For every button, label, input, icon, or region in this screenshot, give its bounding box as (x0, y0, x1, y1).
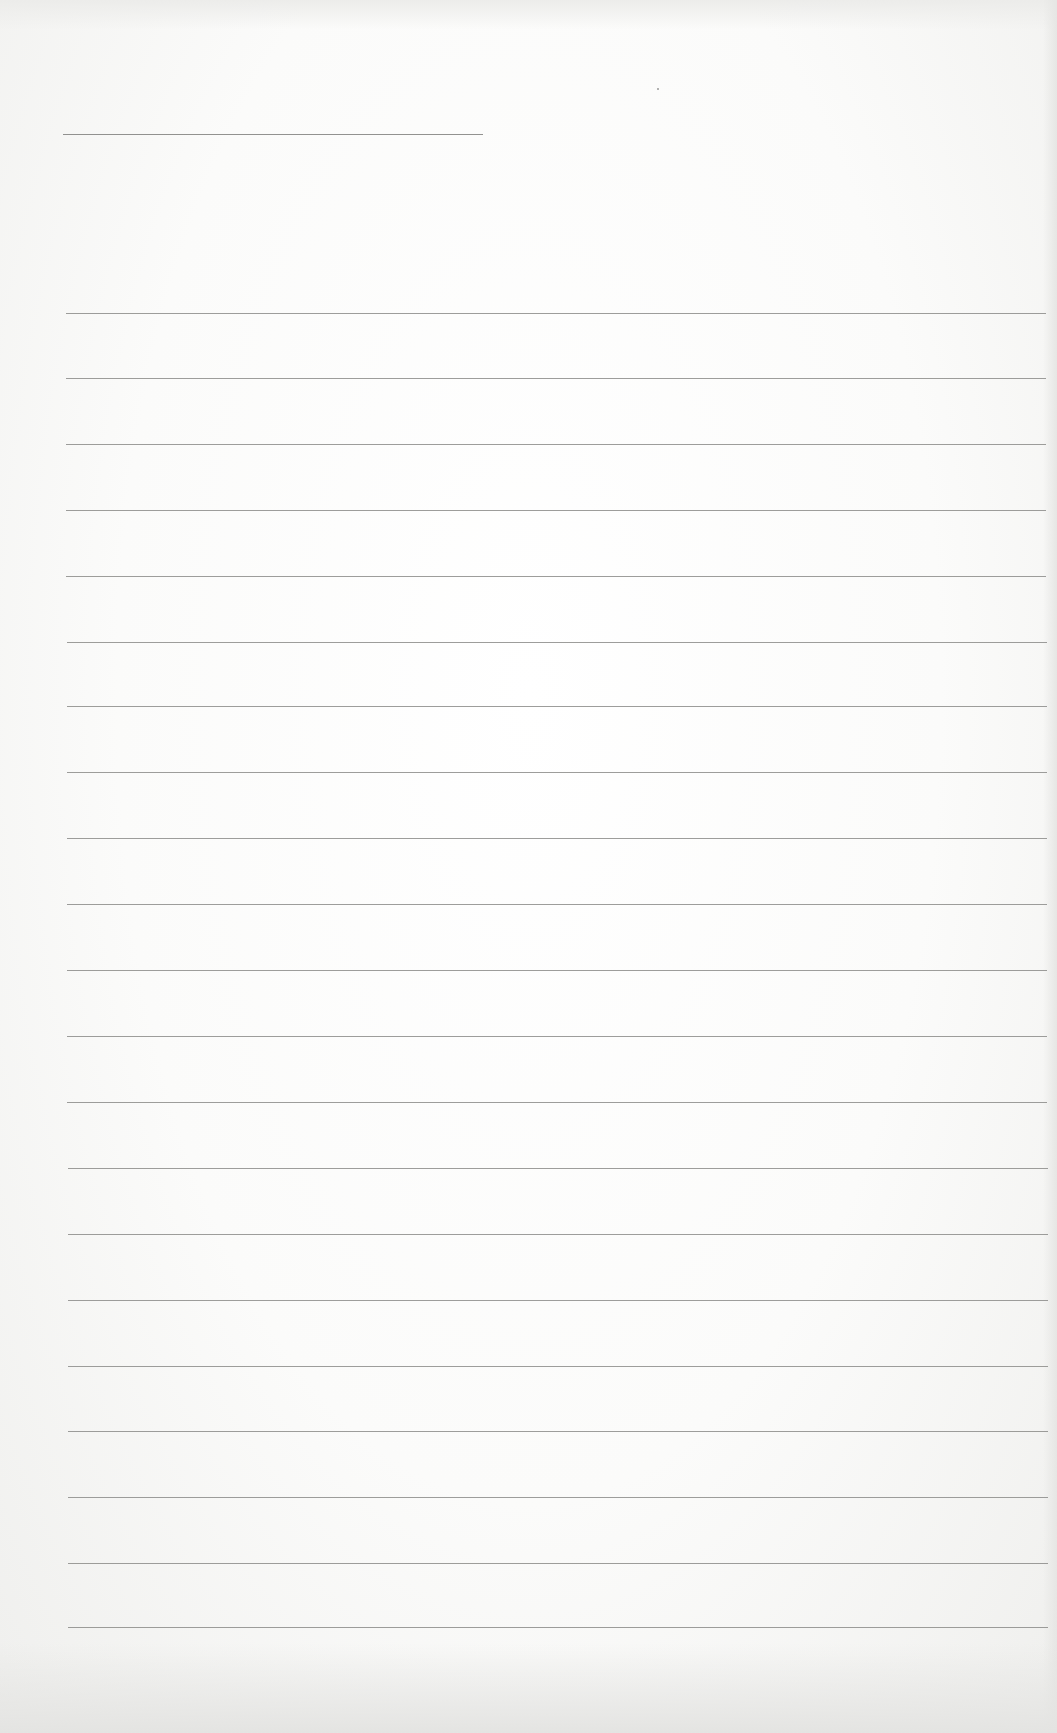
ruled-line (67, 642, 1047, 643)
ruled-line (66, 444, 1046, 445)
ruled-line (67, 1036, 1047, 1037)
ruled-line (67, 904, 1047, 905)
ruled-line (66, 576, 1046, 577)
ruled-line (68, 1168, 1048, 1169)
ruled-line (68, 1497, 1048, 1498)
ruled-line (68, 1300, 1048, 1301)
ruled-line (68, 1627, 1048, 1628)
paper-speck (657, 88, 659, 90)
scan-shadow-right (1043, 0, 1057, 1733)
ruled-line (66, 313, 1046, 314)
ruled-line (68, 1234, 1048, 1235)
scan-shadow-top (0, 0, 1057, 30)
paper-sheet (0, 0, 1057, 1733)
ruled-line (67, 970, 1047, 971)
ruled-line (68, 1431, 1048, 1432)
header-line (63, 134, 483, 135)
ruled-line (67, 772, 1047, 773)
ruled-line (67, 706, 1047, 707)
ruled-line (67, 838, 1047, 839)
ruled-line (67, 1102, 1047, 1103)
ruled-line (68, 1366, 1048, 1367)
ruled-line (66, 378, 1046, 379)
ruled-line (66, 510, 1046, 511)
ruled-line (68, 1563, 1048, 1564)
scan-shadow-bottom (0, 1643, 1057, 1733)
